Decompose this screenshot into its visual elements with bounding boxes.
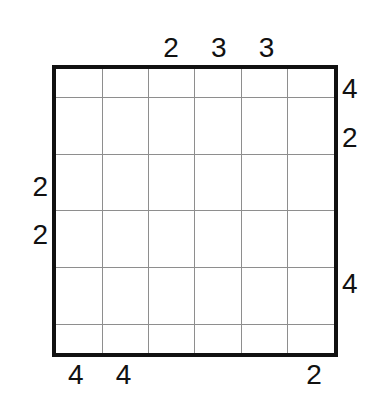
clue-top-col-3: 2: [147, 24, 195, 62]
grid-cell[interactable]: [149, 97, 195, 154]
grid-row: [56, 154, 334, 211]
clue-bottom-col-1: 4: [52, 361, 100, 399]
clue-right-row-4: [342, 211, 377, 260]
clue-top-col-6: [290, 24, 338, 62]
grid-cell[interactable]: [149, 325, 195, 353]
grid-row: [56, 268, 334, 325]
grid-cell[interactable]: [149, 268, 195, 325]
clue-left-row-4: 2: [10, 211, 48, 260]
grid-cell[interactable]: [241, 69, 287, 97]
clue-band-right: 4 2 4: [342, 65, 377, 357]
grid-cell[interactable]: [288, 154, 334, 211]
clue-band-top: 2 3 3: [52, 24, 338, 62]
clue-left-row-5: [10, 260, 48, 309]
grid-cell[interactable]: [195, 69, 241, 97]
clue-right-row-5: 4: [342, 260, 377, 309]
clue-top-col-4: 3: [195, 24, 243, 62]
grid-row: [56, 211, 334, 268]
grid-cell[interactable]: [288, 97, 334, 154]
grid-cell[interactable]: [241, 325, 287, 353]
clue-left-row-6: [10, 308, 48, 357]
grid-cell[interactable]: [241, 268, 287, 325]
grid-row: [56, 97, 334, 154]
grid-cell[interactable]: [241, 211, 287, 268]
grid-cell[interactable]: [56, 211, 102, 268]
grid-cell[interactable]: [241, 97, 287, 154]
clue-bottom-col-5: [243, 361, 291, 399]
grid-cell[interactable]: [195, 154, 241, 211]
grid-cell[interactable]: [241, 154, 287, 211]
grid-table: [56, 69, 334, 353]
grid-cell[interactable]: [56, 69, 102, 97]
grid-row: [56, 325, 334, 353]
clue-bottom-col-2: 4: [100, 361, 148, 399]
grid-cell[interactable]: [102, 211, 148, 268]
clue-top-col-2: [100, 24, 148, 62]
clue-right-row-1: 4: [342, 65, 377, 114]
puzzle-grid: [52, 65, 338, 357]
clue-band-left: 2 2: [10, 65, 48, 357]
grid-cell[interactable]: [195, 211, 241, 268]
clue-bottom-col-3: [147, 361, 195, 399]
clue-bottom-col-4: [195, 361, 243, 399]
clue-top-col-5: 3: [243, 24, 291, 62]
clue-bottom-col-6: 2: [290, 361, 338, 399]
grid-row: [56, 69, 334, 97]
grid-cell[interactable]: [288, 268, 334, 325]
clue-right-row-6: [342, 308, 377, 357]
clue-right-row-3: [342, 162, 377, 211]
puzzle-root: 2 3 3 2 2 4 2 4 4 4 2: [0, 0, 377, 406]
grid-cell[interactable]: [288, 69, 334, 97]
grid-cell[interactable]: [149, 211, 195, 268]
grid-cell[interactable]: [56, 325, 102, 353]
grid-cell[interactable]: [102, 268, 148, 325]
clue-right-row-2: 2: [342, 114, 377, 163]
grid-cell[interactable]: [102, 97, 148, 154]
clue-top-col-1: [52, 24, 100, 62]
grid-cell[interactable]: [102, 69, 148, 97]
grid-cell[interactable]: [195, 97, 241, 154]
grid-cell[interactable]: [288, 211, 334, 268]
grid-cell[interactable]: [195, 268, 241, 325]
grid-cell[interactable]: [102, 325, 148, 353]
grid-cell[interactable]: [56, 97, 102, 154]
grid-cell[interactable]: [56, 154, 102, 211]
clue-left-row-3: 2: [10, 162, 48, 211]
grid-cell[interactable]: [288, 325, 334, 353]
clue-band-bottom: 4 4 2: [52, 361, 338, 399]
clue-left-row-1: [10, 65, 48, 114]
puzzle-grid-inner: [56, 69, 334, 353]
clue-left-row-2: [10, 114, 48, 163]
grid-cell[interactable]: [149, 154, 195, 211]
grid-cell[interactable]: [149, 69, 195, 97]
grid-cell[interactable]: [102, 154, 148, 211]
grid-cell[interactable]: [56, 268, 102, 325]
grid-cell[interactable]: [195, 325, 241, 353]
